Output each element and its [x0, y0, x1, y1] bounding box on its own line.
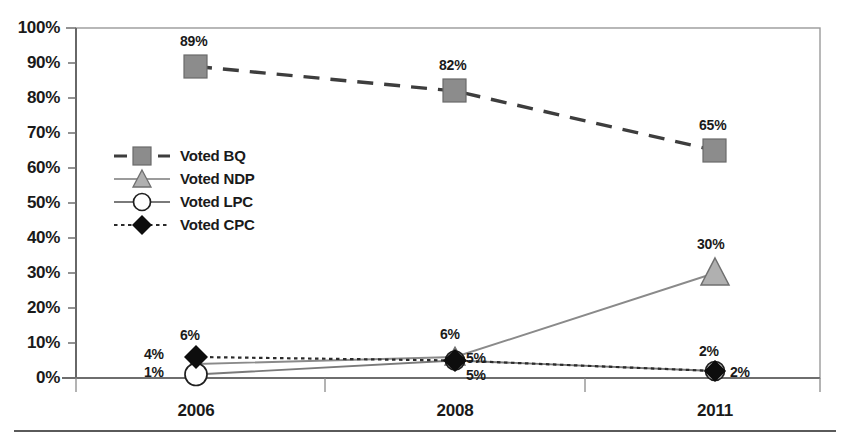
y-axis-tick-label: 30% — [0, 263, 60, 283]
legend-item-label-voted-cpc[interactable]: Voted CPC — [180, 216, 255, 233]
y-axis-tick-label: 80% — [0, 88, 60, 108]
bottom-divider-rule — [14, 430, 836, 432]
y-axis-tick-label: 0% — [0, 368, 60, 388]
data-label-cpc-2008: 5% — [466, 350, 486, 366]
y-axis-tick-label: 40% — [0, 228, 60, 248]
chart-container: 100% 90% 80% 70% 60% 50% 40% 30% 20% 10%… — [0, 0, 850, 441]
y-axis-tick-label: 60% — [0, 158, 60, 178]
y-axis-tick-label: 50% — [0, 193, 60, 213]
data-label-lpc-2011: 2% — [730, 364, 750, 380]
data-label-bq-2011: 65% — [699, 117, 726, 133]
data-label-bq-2006: 89% — [180, 33, 207, 49]
data-label-ndp-2011: 30% — [697, 236, 724, 252]
legend-item-label-voted-lpc[interactable]: Voted LPC — [180, 193, 253, 210]
x-axis-tick-label-2008: 2008 — [405, 401, 505, 421]
data-point-bq-2006 — [184, 55, 207, 78]
data-label-lpc-2008: 5% — [466, 367, 486, 383]
data-point-bq-2008 — [443, 79, 466, 102]
legend-item-label-voted-ndp[interactable]: Voted NDP — [180, 170, 255, 187]
data-label-ndp-2008: 6% — [440, 326, 460, 342]
legend-item-label-voted-bq[interactable]: Voted BQ — [180, 147, 246, 164]
y-axis-tick-label: 100% — [0, 18, 60, 38]
data-point-bq-2011 — [703, 139, 726, 162]
legend-marker-bq — [133, 147, 151, 165]
y-axis-tick-label: 10% — [0, 333, 60, 353]
y-axis-tick-label: 70% — [0, 123, 60, 143]
data-label-ndp-2006: 4% — [144, 346, 164, 362]
x-axis-tick-label-2006: 2006 — [146, 401, 246, 421]
data-label-cpc-2011: 2% — [699, 343, 719, 359]
data-label-bq-2008: 82% — [439, 57, 466, 73]
y-axis-ticks — [62, 28, 76, 378]
chart-plot-svg — [0, 0, 850, 441]
data-label-lpc-2006: 1% — [144, 364, 164, 380]
y-axis-tick-label: 20% — [0, 298, 60, 318]
y-axis-tick-label: 90% — [0, 53, 60, 73]
data-label-cpc-2006: 6% — [180, 327, 200, 343]
legend-marker-lpc — [134, 194, 151, 211]
x-axis-tick-label-2011: 2011 — [665, 401, 765, 421]
